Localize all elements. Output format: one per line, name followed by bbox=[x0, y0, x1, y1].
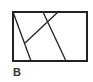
diagonal-line-3 bbox=[25, 12, 58, 43]
diagonal-line-2 bbox=[43, 12, 66, 61]
figure-label: B bbox=[13, 66, 21, 78]
diagonal-line-1 bbox=[13, 12, 31, 61]
